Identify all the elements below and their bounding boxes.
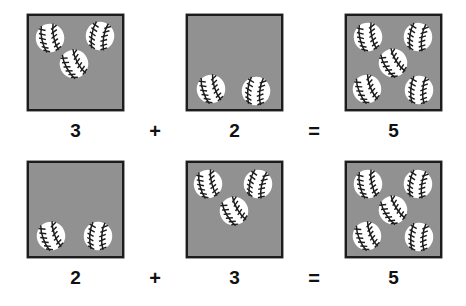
equation-2-addend-1-label: 2 (27, 264, 124, 292)
equation-1-sum-box (345, 14, 442, 111)
equation-1-sum-label: 5 (345, 117, 442, 145)
baseball-icon (240, 75, 273, 108)
baseball-icon (347, 69, 386, 108)
equation-1-addend-1-label: 3 (27, 117, 124, 145)
equation-1-addend-2-label: 2 (186, 117, 283, 145)
baseball-icon (350, 19, 386, 55)
equation-2-addend-1-box (27, 161, 124, 258)
baseball-icon (83, 19, 118, 54)
equation-2-equals-operator: = (283, 264, 345, 292)
baseball-icon (32, 217, 70, 255)
equation-2-plus-operator: + (124, 264, 186, 292)
equation-1-addend-2-box (186, 14, 283, 111)
baseball-icon (82, 220, 114, 252)
baseball-icon (403, 74, 435, 106)
worksheet-canvas: 3 + 2 = 5 2 + 3 = 5 (0, 0, 466, 306)
equation-2-sum-label: 5 (345, 264, 442, 292)
baseball-icon (350, 166, 386, 202)
baseball-icon (401, 167, 435, 201)
baseball-icon (401, 20, 435, 54)
equation-1-equals-operator: = (283, 117, 345, 145)
equation-2-addend-2-label: 3 (186, 264, 283, 292)
equation-1-plus-operator: + (124, 117, 186, 145)
baseball-icon (32, 20, 68, 56)
baseball-icon (403, 221, 435, 253)
baseball-icon (192, 70, 230, 108)
baseball-icon (240, 166, 276, 202)
equation-2-sum-box (345, 161, 442, 258)
baseball-icon (190, 166, 226, 202)
equation-row-1: 3 + 2 = 5 (0, 14, 466, 159)
equation-2-addend-2-box (186, 161, 283, 258)
baseball-icon (347, 216, 386, 255)
equation-1-addend-1-box (27, 14, 124, 111)
equation-row-2: 2 + 3 = 5 (0, 161, 466, 306)
